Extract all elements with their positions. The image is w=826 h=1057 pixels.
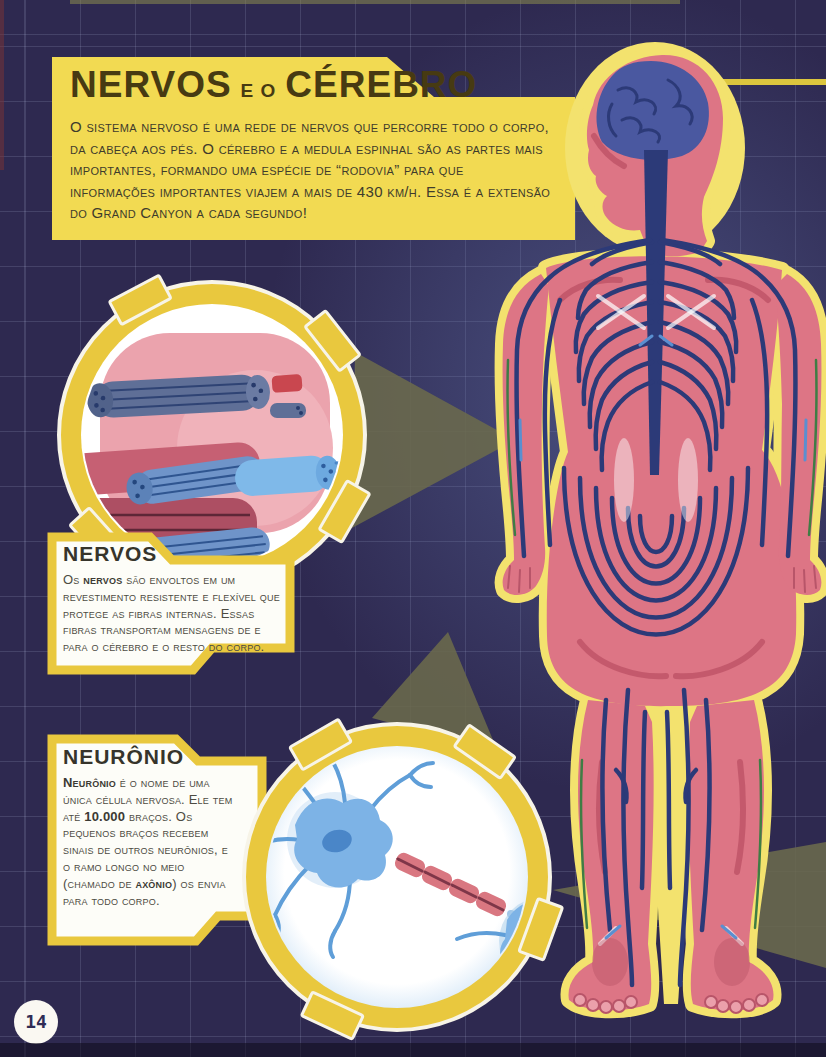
nervos-box-title: NERVOS <box>63 542 282 566</box>
neuronio-box: NEURÔNIO Neurônio é o nome de uma única … <box>63 745 235 909</box>
left-edge-strip <box>0 0 4 170</box>
green-sprout-marks <box>563 857 570 1017</box>
neuronio-box-paragraph: Neurônio é o nome de uma única célula ne… <box>63 775 235 909</box>
neuron-inset-circle <box>225 705 570 1050</box>
neuronio-text-bold2: 10.000 <box>84 809 125 824</box>
top-edge-strip <box>70 0 680 4</box>
neuronio-box-title: NEURÔNIO <box>63 745 235 769</box>
book-page: NERVOS E O CÉREBRO O sistema nervoso é u… <box>0 0 826 1057</box>
nervos-box-paragraph: Os nervos são envoltos em um revestiment… <box>63 572 282 656</box>
neuronio-text-bold3: axônio <box>135 876 172 891</box>
page-number: 14 <box>14 1000 58 1044</box>
bottom-edge-shadow <box>0 1043 826 1057</box>
nervos-text-lead: Os <box>63 572 83 587</box>
nervos-text-bold: nervos <box>83 572 122 587</box>
nervos-box: NERVOS Os nervos são envoltos em um reve… <box>63 542 282 656</box>
neuronio-text-bold1: Neurônio <box>63 775 116 790</box>
neuron-ring <box>244 719 563 1039</box>
